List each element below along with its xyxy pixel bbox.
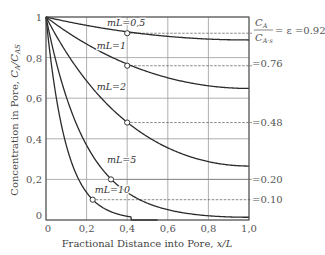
effectiveness-label-mL1: =0.76 [252,58,283,69]
x-tick-label: 0 [45,223,51,234]
series-label: mL=2 [97,81,126,92]
effectiveness-annotation: CA CA·s = ε =0.92 [254,17,325,45]
marker-circle [90,197,95,202]
svg-text:CA: CA [255,17,268,30]
y-tick-label: 0,2 [26,174,42,185]
curve-mL-1 [46,17,249,88]
y-tick-label: 1 [36,12,42,23]
y-tick-label: 0,6 [26,93,42,104]
series-label: mL=5 [107,154,136,165]
x-tick-label: 0,6 [160,223,176,234]
plot-frame [46,17,249,220]
concentration-curves [46,17,249,220]
series-label: mL=1 [97,40,126,51]
svg-text:CA·s: CA·s [255,32,273,45]
curve-mL-0_5 [46,17,249,40]
y-tick-label: 0,8 [26,53,42,64]
y-tick-label: 0 [36,210,42,221]
effectiveness-label-mL5: =0.20 [252,174,283,185]
y-axis-ticks: 00,20,40,60,81 [26,12,42,221]
curve-mL-5 [46,17,249,217]
x-tick-label: 0,4 [119,223,135,234]
y-axis-title: Concentration in Pore, CA/CAS [9,44,22,196]
grid [46,17,249,220]
effectiveness-label-mL10: =0.10 [252,194,283,205]
y-tick-label: 0,4 [26,134,42,145]
x-tick-label: 0,2 [79,223,95,234]
chart: 00,20,40,60,81,0 00,20,40,60,81 mL=0,5mL… [0,0,325,255]
marker-circle [125,120,130,125]
series-labels: mL=0,5mL=1mL=2mL=5mL=10 [95,17,146,194]
x-axis-ticks: 00,20,40,60,81,0 [45,223,257,234]
series-label: mL=10 [95,184,130,195]
marker-circle [125,63,130,68]
x-tick-label: 0,8 [200,223,216,234]
marker-circle [108,177,113,182]
marker-circle [125,31,130,36]
svg-text:= ε =0.92: = ε =0.92 [275,25,325,36]
x-axis-title: Fractional Distance into Pore, x/L [62,238,233,249]
x-tick-label: 1,0 [241,223,257,234]
effectiveness-guide-lines [96,33,252,199]
series-label: mL=0,5 [107,17,145,28]
effectiveness-label-mL2: =0.48 [252,117,283,128]
